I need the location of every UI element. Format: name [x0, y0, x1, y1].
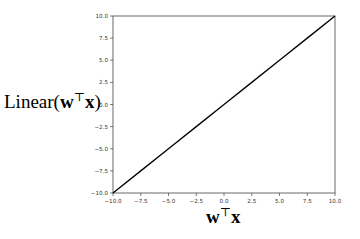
y-axis-label: Linear(w⊤x)	[4, 90, 101, 113]
y-label-w: w	[60, 91, 74, 112]
y-tick-label: 10.0	[96, 13, 109, 19]
y-tick-label: −7.5	[94, 168, 108, 174]
x-axis-label: w⊤x	[206, 205, 241, 228]
x-tick-label: −7.5	[134, 198, 148, 204]
y-label-transpose: ⊤	[74, 90, 85, 104]
chart: −10.0−7.5−5.0−2.50.02.55.07.510.0−10.0−7…	[0, 0, 360, 239]
series-line	[113, 16, 335, 193]
x-tick-label: 2.5	[247, 198, 256, 204]
data-series	[113, 16, 335, 193]
x-tick-label: −10.0	[104, 198, 122, 204]
x-tick-label: −5.0	[162, 198, 176, 204]
y-tick-label: 5.0	[99, 57, 108, 63]
x-tick-label: 0.0	[220, 198, 229, 204]
x-label-x: x	[231, 206, 241, 227]
y-tick-label: −10.0	[91, 190, 109, 196]
y-tick-label: −5.0	[94, 146, 108, 152]
x-tick-label: 10.0	[329, 198, 342, 204]
y-label-prefix: Linear(	[4, 91, 60, 112]
y-label-suffix: )	[94, 91, 100, 112]
y-tick-label: −2.5	[94, 124, 108, 130]
x-tick-label: −2.5	[189, 198, 203, 204]
x-tick-label: 5.0	[275, 198, 284, 204]
tick-labels: −10.0−7.5−5.0−2.50.02.55.07.510.0−10.0−7…	[91, 13, 342, 204]
x-label-transpose: ⊤	[220, 205, 231, 219]
x-label-w: w	[206, 206, 220, 227]
y-label-x: x	[85, 91, 95, 112]
y-tick-label: 7.5	[99, 35, 108, 41]
x-tick-label: 7.5	[303, 198, 312, 204]
y-tick-label: 2.5	[99, 79, 108, 85]
